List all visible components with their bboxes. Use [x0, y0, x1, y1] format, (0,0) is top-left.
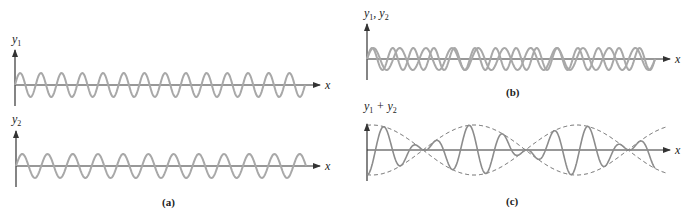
x-axis-label: x: [674, 143, 681, 157]
panel-a-y1: y1 x: [11, 32, 331, 106]
sum-axis-label: y1 + y2: [363, 99, 397, 115]
y1-y2-axis-label: y1, y2: [363, 6, 389, 22]
x-axis-label: x: [324, 78, 331, 92]
panel-c: y1 + y2 x (c): [363, 99, 681, 208]
y1-axis-label: y1: [11, 32, 21, 48]
panel-b: y1, y2 x (b): [363, 6, 681, 99]
caption-c: (c): [506, 195, 519, 208]
panel-a-y2: y2 x (a): [11, 112, 331, 209]
caption-b: (b): [506, 86, 520, 99]
caption-a: (a): [162, 196, 175, 209]
beats-figure: y1 x y2 x (a) y1, y2 x (b) y1 + y2 x (c): [0, 0, 689, 215]
x-axis-label: x: [674, 52, 681, 66]
x-axis-label: x: [324, 159, 331, 173]
y2-axis-label: y2: [11, 112, 21, 128]
